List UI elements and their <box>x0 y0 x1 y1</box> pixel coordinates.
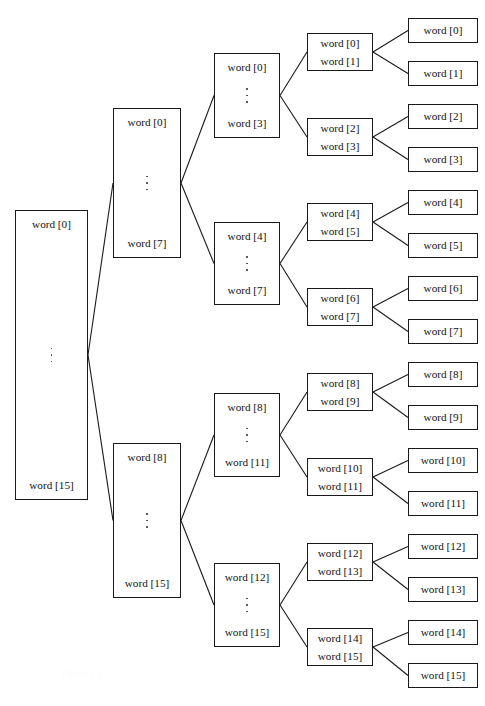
array-box-label: word [3] <box>424 153 463 166</box>
edge-p2-to-l5 <box>373 222 408 246</box>
array-box-l13: word [13] <box>408 577 478 602</box>
array-box-p2: word [4]word [5] <box>307 203 373 241</box>
array-box-first-label: word [6] <box>321 292 360 305</box>
array-box-label: word [6] <box>424 282 463 295</box>
array-box-first-label: word [2] <box>321 122 360 135</box>
array-box-l12: word [12] <box>408 534 478 559</box>
edge-p0-to-l0 <box>373 31 408 53</box>
array-box-p1: word [2]word [3] <box>307 118 373 156</box>
array-box-first-label: word [12] <box>225 571 269 584</box>
edge-n4-to-p2 <box>280 222 307 264</box>
edge-n5-to-p5 <box>280 435 307 477</box>
vertical-ellipsis <box>246 584 248 626</box>
edge-n0-to-n2 <box>88 355 113 521</box>
array-box-first-label: word [0] <box>32 218 71 231</box>
array-box-l2: word [2] <box>408 104 478 129</box>
ellipsis-dot <box>246 611 248 613</box>
diagram-canvas: word [0]word [15]word [0]word [7]word [8… <box>0 0 485 706</box>
array-box-last-label: word [15] <box>125 577 169 590</box>
array-box-last-label: word [15] <box>29 479 73 492</box>
ellipsis-dot <box>246 269 248 271</box>
array-box-l7: word [7] <box>408 319 478 344</box>
array-box-n4: word [4]word [7] <box>214 222 280 305</box>
ellipsis-dot <box>246 88 248 90</box>
edge-p6-to-l13 <box>373 562 408 590</box>
array-box-first-label: word [14] <box>318 632 362 645</box>
edge-n4-to-p3 <box>280 264 307 308</box>
vertical-ellipsis <box>246 243 248 284</box>
array-box-label: word [12] <box>421 540 465 553</box>
array-box-first-label: word [0] <box>228 61 267 74</box>
array-box-l1: word [1] <box>408 61 478 86</box>
array-box-l11: word [11] <box>408 491 478 516</box>
ellipsis-dot <box>246 434 248 436</box>
array-box-last-label: word [7] <box>321 310 360 323</box>
edge-p6-to-l12 <box>373 547 408 563</box>
ellipsis-dot <box>246 428 248 430</box>
vertical-ellipsis <box>246 414 248 456</box>
array-box-last-label: word [3] <box>321 140 360 153</box>
array-box-label: word [0] <box>424 24 463 37</box>
edge-n2-to-n6 <box>181 521 214 606</box>
ellipsis-dot <box>146 189 148 191</box>
array-box-n2: word [8]word [15] <box>113 443 181 598</box>
edge-p4-to-l8 <box>373 375 408 393</box>
array-box-label: word [10] <box>421 454 465 467</box>
ellipsis-dot <box>246 441 248 443</box>
ellipsis-dot <box>146 520 148 522</box>
array-box-first-label: word [8] <box>228 401 267 414</box>
edge-n6-to-p7 <box>280 605 307 647</box>
array-box-label: word [5] <box>424 239 463 252</box>
array-box-label: word [4] <box>424 196 463 209</box>
array-box-first-label: word [4] <box>228 230 267 243</box>
array-box-label: word [2] <box>424 110 463 123</box>
vertical-ellipsis <box>246 74 248 117</box>
array-box-last-label: word [13] <box>318 565 362 578</box>
array-box-l3: word [3] <box>408 147 478 172</box>
array-box-n3: word [0]word [3] <box>214 53 280 138</box>
vertical-ellipsis <box>146 464 148 577</box>
edge-p7-to-l15 <box>373 647 408 676</box>
edge-p2-to-l4 <box>373 203 408 223</box>
array-box-first-label: word [4] <box>321 207 360 220</box>
array-box-n1: word [0]word [7] <box>113 108 181 258</box>
array-box-label: word [7] <box>424 325 463 338</box>
array-box-label: word [13] <box>421 583 465 596</box>
edge-n0-to-n1 <box>88 183 113 355</box>
array-box-label: word [15] <box>421 669 465 682</box>
ellipsis-dot <box>51 361 53 363</box>
figure-caption: Figure 1.1 <box>62 668 103 679</box>
vertical-ellipsis <box>51 231 53 479</box>
edge-n6-to-p6 <box>280 562 307 605</box>
array-box-last-label: word [5] <box>321 225 360 238</box>
array-box-p4: word [8]word [9] <box>307 373 373 411</box>
array-box-first-label: word [12] <box>318 547 362 560</box>
ellipsis-dot <box>146 182 148 184</box>
array-box-first-label: word [0] <box>321 37 360 50</box>
array-box-l10: word [10] <box>408 448 478 473</box>
array-box-last-label: word [15] <box>318 650 362 663</box>
array-box-p6: word [12]word [13] <box>307 543 373 581</box>
array-box-last-label: word [11] <box>318 480 362 493</box>
edge-n1-to-n4 <box>181 183 214 264</box>
array-box-last-label: word [9] <box>321 395 360 408</box>
vertical-ellipsis <box>146 129 148 237</box>
ellipsis-dot <box>146 526 148 528</box>
edge-n5-to-p4 <box>280 392 307 435</box>
ellipsis-dot <box>246 263 248 265</box>
edge-n1-to-n3 <box>181 96 214 184</box>
ellipsis-dot <box>246 101 248 103</box>
edge-p7-to-l14 <box>373 633 408 648</box>
array-box-label: word [11] <box>421 497 465 510</box>
array-box-p0: word [0]word [1] <box>307 33 373 71</box>
array-box-l14: word [14] <box>408 620 478 645</box>
array-box-l4: word [4] <box>408 190 478 215</box>
array-box-l5: word [5] <box>408 233 478 258</box>
array-box-label: word [1] <box>424 67 463 80</box>
ellipsis-dot <box>146 513 148 515</box>
ellipsis-dot <box>246 604 248 606</box>
array-box-last-label: word [11] <box>225 456 269 469</box>
array-box-first-label: word [10] <box>318 462 362 475</box>
ellipsis-dot <box>246 95 248 97</box>
edge-p1-to-l3 <box>373 137 408 160</box>
